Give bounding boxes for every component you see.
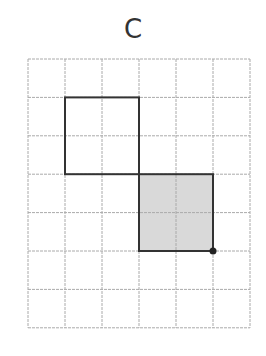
points [210,248,217,255]
grid-diagram [0,0,266,356]
vertex-point [210,248,217,255]
